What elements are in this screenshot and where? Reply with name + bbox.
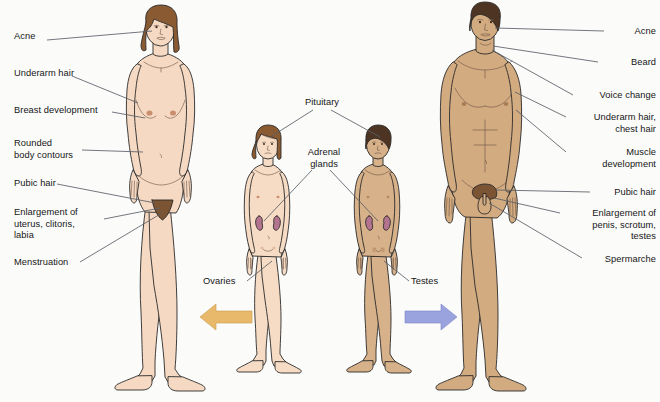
label-pituitary: Pituitary (296, 97, 348, 109)
label-rounded-body-contours: Rounded body contours (14, 138, 106, 161)
label-breast-development: Breast development (14, 105, 126, 117)
label-menstruation: Menstruation (14, 257, 106, 269)
label-voice-change: Voice change (566, 90, 656, 102)
label-enlargement-uterus: Enlargement of uterus, clitoris, labia (14, 207, 118, 242)
label-ovaries: Ovaries (203, 276, 249, 288)
arrow-male-right (405, 304, 457, 330)
label-pubic-hair-male: Pubic hair (584, 187, 656, 199)
label-beard: Beard (586, 57, 656, 69)
label-underarm-hair-female: Underarm hair (14, 68, 104, 80)
label-underarm-chest-hair: Underarm hair, chest hair (560, 112, 656, 135)
puberty-diagram: .o { stroke:#2a2a2a; stroke-width:0.9; s… (0, 0, 660, 402)
label-acne-female: Acne (14, 31, 84, 43)
label-spermarche: Spermarche (576, 254, 656, 266)
label-pubic-hair-female: Pubic hair (14, 178, 84, 190)
arrow-female-left (200, 304, 252, 330)
label-testes: Testes (411, 276, 455, 288)
arrows-layer (0, 0, 660, 402)
label-acne-male: Acne (590, 26, 656, 38)
label-muscle-development: Muscle development (556, 147, 656, 170)
label-adrenal-glands: Adrenal glands (300, 147, 348, 170)
label-enlargement-penis: Enlargement of penis, scrotum, testes (554, 208, 656, 243)
